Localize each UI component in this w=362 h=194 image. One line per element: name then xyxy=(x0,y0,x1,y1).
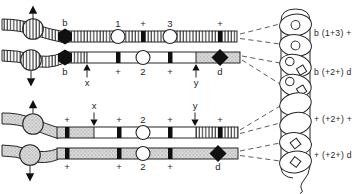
site-label: x xyxy=(92,100,97,111)
centromere-1 xyxy=(23,19,44,40)
spindle-arrow-up-icon xyxy=(29,100,37,114)
band-marker xyxy=(168,52,173,63)
site-x-arrow-down-icon xyxy=(90,113,97,127)
band-marker xyxy=(168,148,173,159)
connector-line xyxy=(240,39,280,45)
band-marker xyxy=(141,31,146,42)
site-y-arrow-down-icon xyxy=(191,113,198,127)
chromatid-2 xyxy=(58,49,240,66)
bottom-chromatid-pair: + + 2 + + x y + + 2 + d xyxy=(2,100,238,182)
connector-line xyxy=(240,106,280,130)
band-marker xyxy=(117,148,122,159)
allele-circle-icon xyxy=(291,20,301,30)
connector-line xyxy=(242,60,280,84)
marker-label: 3 xyxy=(167,18,172,29)
marker-label: + xyxy=(116,114,122,125)
band-marker xyxy=(218,31,223,42)
genotype-label: b (1+3) + xyxy=(314,28,352,38)
top-chromatid-pair: b 1 + 3 + b + 2 + d x xyxy=(2,6,240,89)
site-y-arrow-up-icon xyxy=(192,64,199,78)
marker-label: + xyxy=(116,161,122,172)
centromere-3 xyxy=(23,114,44,135)
connector-line xyxy=(240,24,280,34)
centromere-2 xyxy=(21,50,42,71)
allele-circle-icon xyxy=(291,41,301,51)
locus2-circle xyxy=(136,126,150,140)
marker-label: d xyxy=(215,161,220,172)
site-label: y xyxy=(194,77,199,88)
band-marker xyxy=(168,127,173,138)
locus2-circle xyxy=(136,51,150,65)
connector-line xyxy=(242,56,280,63)
marker-label: + xyxy=(64,114,70,125)
connector-line xyxy=(240,143,280,151)
marker-label: + xyxy=(167,114,173,125)
band-marker xyxy=(117,127,122,138)
marker-label: + xyxy=(217,18,223,29)
marker-label: + xyxy=(217,114,223,125)
site-label: y xyxy=(193,100,198,111)
spindle-arrow-up-icon xyxy=(29,6,37,20)
genotype-label: b (+2+) d xyxy=(314,67,352,77)
figure-canvas: b 1 + 3 + b + 2 + d x xyxy=(0,0,362,194)
locus1-circle xyxy=(111,30,125,44)
marker-label: + xyxy=(140,18,146,29)
marker-label: 1 xyxy=(115,18,120,29)
marker-label: d xyxy=(217,66,222,77)
marker-label: + xyxy=(167,66,173,77)
marker-label: b xyxy=(62,17,67,28)
marker-label: b xyxy=(62,66,67,77)
spindle-arrow-down-icon xyxy=(26,166,34,182)
marker-label: 2 xyxy=(140,66,145,77)
site-x-arrow-up-icon xyxy=(83,64,90,78)
marker-label: 2 xyxy=(140,161,145,172)
recombination-octad-diagram: b 1 + 3 + b + 2 + d x xyxy=(0,0,362,194)
locus2-circle xyxy=(136,147,150,161)
marker-label: + xyxy=(115,66,121,77)
genotype-label: + (+2+) d xyxy=(314,150,352,160)
genotype-label: + (+2+) + xyxy=(314,114,352,124)
chromatid-3 xyxy=(57,126,238,140)
marker-label: 2 xyxy=(140,114,145,125)
site-label: x xyxy=(85,77,90,88)
centromere-4 xyxy=(20,145,41,166)
spore-1 xyxy=(278,13,312,38)
dashed-connectors xyxy=(240,24,280,161)
band-marker xyxy=(65,127,70,138)
marker-label: + xyxy=(64,161,70,172)
locus3-circle xyxy=(163,30,177,44)
spindle-arrow-down-icon xyxy=(27,71,35,87)
band-marker xyxy=(116,52,121,63)
band-marker xyxy=(65,148,70,159)
connector-line xyxy=(240,123,280,134)
chromatid-4 xyxy=(57,145,238,162)
marker-label: + xyxy=(167,161,173,172)
spore-8 xyxy=(278,149,313,175)
ascus: b (1+3) + b (+2+) d + (+2+) + + (+2+) d xyxy=(277,9,352,194)
connector-line xyxy=(240,156,280,162)
band-marker xyxy=(218,127,223,138)
chromatid-1 xyxy=(58,29,237,45)
